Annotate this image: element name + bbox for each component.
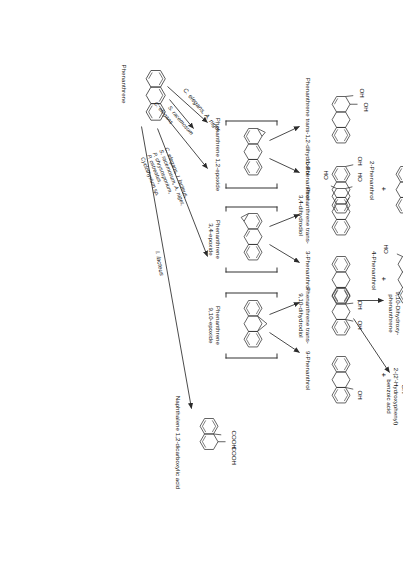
structure-3-phenanthrol: [332, 256, 350, 302]
label-1-phenanthrol: 1-Phenanthrol: [304, 150, 311, 210]
bracket-epoxide-3-4: [225, 206, 277, 272]
label-9-10-dihydroxyphenanthrene: 9,10-Dihydroxy- phenanthrene: [387, 272, 401, 354]
ho-label-p4: HO: [382, 244, 389, 253]
structure-naphthalene-1-2-dicarboxylic-acid: [200, 418, 225, 449]
structure-2-phenanthrol: [396, 166, 403, 212]
oh-label-d910-b: OH: [356, 320, 363, 329]
plus-sign-3: +: [378, 372, 387, 377]
label-phenanthrene: Phenanthrene: [120, 64, 127, 103]
plus-sign-1: +: [378, 186, 387, 191]
diagram-vector-layer: [0, 0, 403, 572]
label-hydroxyphenyl-benzoic-acid: 2-(2'-Hydroxyphenyl) benzoic acid: [385, 350, 399, 442]
label-2-phenanthrol: 2-Phenanthrol: [368, 150, 375, 210]
label-9-phenanthrol: 9-Phenanthrol: [304, 340, 311, 400]
bracket-epoxide-9-10: [225, 292, 277, 358]
figure-rotation-wrapper: Phenanthrene conjugates Glucosides Glucu…: [0, 0, 403, 572]
oh-label-p1: OH: [356, 156, 363, 165]
label-naphthalene-dicarboxylic-acid: Naphthalene 1,2-dicarboxylic acid: [174, 384, 181, 500]
oh-label-d910-a: OH: [356, 300, 363, 309]
plus-sign-2: +: [378, 276, 387, 281]
structure-9-phenanthrol: [332, 356, 353, 402]
structure-trans-1-2-dihydrodiol: [332, 95, 357, 142]
label-4-phenanthrol: 4-Phenanthrol: [370, 240, 377, 300]
label-epoxide-9-10: Phenanthrene 9,10-epoxide: [207, 290, 221, 360]
oh-label-d12-b: OH: [362, 102, 369, 111]
ho-label-d34-a: HO: [356, 172, 363, 181]
label-epoxide-3-4: Phenanthrene 3,4-epoxide: [207, 204, 221, 274]
bracket-epoxide-1-2: [225, 120, 277, 188]
cooh-label-nda-b: COOH: [230, 446, 237, 465]
oh-label-p9: OH: [356, 390, 363, 399]
oh-label-d12-a: OH: [358, 88, 365, 97]
pathway-diagram-canvas: Phenanthrene conjugates Glucosides Glucu…: [0, 0, 403, 572]
label-3-phenanthrol: 3-Phenanthrol: [304, 240, 311, 300]
ho-label-d34-b: HO: [322, 170, 329, 179]
